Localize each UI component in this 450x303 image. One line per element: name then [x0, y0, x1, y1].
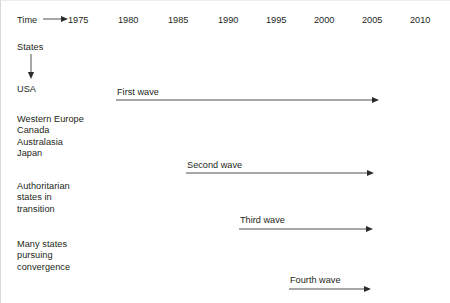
fourth-wave-head: [364, 286, 371, 292]
time-arrow-head: [61, 16, 68, 22]
first-wave-head: [372, 97, 379, 103]
timeline-diagram: Time States 1975198019851990199520002005…: [0, 0, 450, 303]
arrow-group: [28, 16, 379, 292]
arrows-layer: [1, 1, 450, 303]
third-wave-head: [366, 226, 373, 232]
states-arrow-head: [28, 72, 34, 79]
second-wave-head: [367, 170, 374, 176]
